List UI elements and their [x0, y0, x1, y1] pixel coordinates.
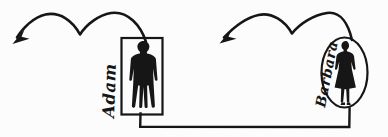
connector-line [140, 109, 349, 128]
adam-label: Adam [99, 63, 120, 120]
barbara-label: Barbara [312, 40, 341, 110]
adam-group: Adam [13, 13, 163, 120]
barbara-double-hop-arrow-icon [224, 13, 352, 40]
barbara-group: Barbara [220, 13, 368, 110]
sketch-diagram: Adam Barbara [0, 0, 388, 137]
diagram-canvas: Adam Barbara [0, 0, 388, 137]
barbara-arrowhead-icon [220, 29, 237, 44]
adam-man-silhouette-icon [129, 41, 157, 108]
barbara-feet-icon [341, 103, 351, 106]
